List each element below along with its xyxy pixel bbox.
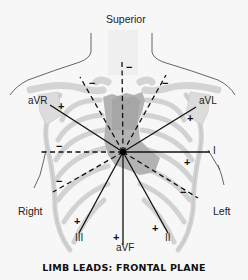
lead-aVR-label: aVR <box>28 96 47 106</box>
figure-caption: LIMB LEADS: FRONTAL PLANE <box>0 262 248 273</box>
superior-label: Superior <box>106 14 146 25</box>
aVL-positive-sign: + <box>187 113 193 124</box>
lead-II-label: II <box>165 233 171 243</box>
lead-III-label: III <box>75 233 83 243</box>
I-negative-sign: − <box>56 141 62 152</box>
heart-center-point <box>120 149 126 155</box>
right-label: Right <box>18 206 43 217</box>
lead-III-positive-axis <box>79 152 123 233</box>
lead-aVL-label: aVL <box>199 96 217 106</box>
II-negative-sign: − <box>89 78 95 89</box>
aVL-negative-sign: − <box>56 176 62 187</box>
limb-leads-diagram: Superior Right Left aVR aVL I III II aVF… <box>0 0 248 280</box>
III-negative-sign: − <box>162 78 168 89</box>
III-positive-sign: + <box>74 216 80 227</box>
clavicles <box>30 80 218 91</box>
aVR-positive-sign: + <box>58 101 64 112</box>
left-label: Left <box>213 206 231 217</box>
neck-shading <box>108 30 138 75</box>
aVF-negative-sign: − <box>126 62 132 73</box>
aVR-negative-sign: − <box>180 187 186 198</box>
anatomy-and-lead-axes <box>0 0 248 280</box>
lead-aVF-label: aVF <box>116 243 134 253</box>
I-positive-sign: + <box>184 157 190 168</box>
aVF-positive-sign: + <box>113 232 119 243</box>
lead-I-label: I <box>213 146 216 156</box>
II-positive-sign: + <box>152 223 158 234</box>
